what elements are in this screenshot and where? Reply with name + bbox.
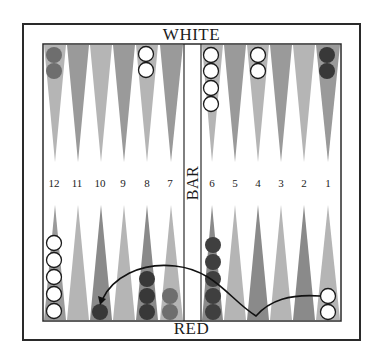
checker-white[interactable] [251, 48, 266, 63]
checker-red[interactable] [139, 271, 155, 287]
checker-red[interactable] [319, 47, 335, 63]
checker-red[interactable] [162, 288, 178, 304]
checker-white[interactable] [47, 253, 62, 268]
checker-red[interactable] [46, 63, 62, 79]
point-number-4: 4 [248, 177, 268, 189]
point-number-8: 8 [137, 177, 157, 189]
checker-red[interactable] [205, 288, 221, 304]
checker-white[interactable] [204, 64, 219, 79]
point-number-7: 7 [160, 177, 180, 189]
checker-red[interactable] [92, 304, 108, 320]
point-number-10: 10 [90, 177, 110, 189]
checker-white[interactable] [204, 48, 219, 63]
point-number-6: 6 [202, 177, 222, 189]
checker-red[interactable] [162, 304, 178, 320]
checker-red[interactable] [139, 304, 155, 320]
checker-white[interactable] [204, 97, 219, 112]
point-number-3: 3 [271, 177, 291, 189]
checker-white[interactable] [204, 81, 219, 96]
point-number-1: 1 [318, 177, 338, 189]
checker-white[interactable] [47, 270, 62, 285]
checker-white[interactable] [47, 236, 62, 251]
point-number-2: 2 [294, 177, 314, 189]
checker-white[interactable] [139, 47, 154, 62]
point-number-5: 5 [225, 177, 245, 189]
checker-red[interactable] [205, 237, 221, 253]
checker-red[interactable] [205, 304, 221, 320]
checker-red[interactable] [319, 63, 335, 79]
checker-white[interactable] [251, 64, 266, 79]
checker-white[interactable] [47, 287, 62, 302]
point-number-9: 9 [113, 177, 133, 189]
checker-white[interactable] [139, 63, 154, 78]
checker-white[interactable] [321, 305, 336, 320]
checker-red[interactable] [46, 47, 62, 63]
checker-red[interactable] [205, 254, 221, 270]
bar-label: BAR [184, 163, 202, 203]
point-number-12: 12 [44, 177, 64, 189]
point-number-11: 11 [67, 177, 87, 189]
checker-red[interactable] [139, 288, 155, 304]
checker-white[interactable] [47, 304, 62, 319]
checker-white[interactable] [321, 289, 336, 304]
